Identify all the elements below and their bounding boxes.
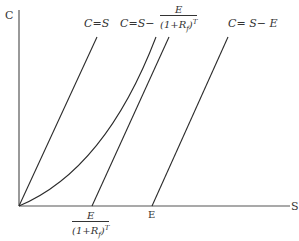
pv-lower-bound-fraction: E (1+Rf)T xyxy=(160,4,197,35)
den-open: (1+R xyxy=(72,225,98,236)
x-tick-pv-numerator: E xyxy=(87,210,94,221)
x-axis-label: S xyxy=(291,200,299,213)
pv-lower-bound-label: C=S− xyxy=(120,17,154,30)
option-bounds-diagram xyxy=(0,0,299,241)
upper-bound-label: C=S xyxy=(84,17,109,30)
x-tick-strike: E xyxy=(148,209,155,220)
intrinsic-lower-bound-line xyxy=(152,37,228,206)
den-sup: T xyxy=(105,224,110,232)
upper-bound-lhs: C= xyxy=(84,17,102,30)
x-tick-pv-strike: E (1+Rf)T xyxy=(72,210,109,241)
pv-lower-bound-lhs: C= xyxy=(120,17,138,30)
den-sup: T xyxy=(193,18,198,26)
pv-fraction-numerator: E xyxy=(175,4,182,15)
y-axis-label: C xyxy=(5,9,13,22)
upper-bound-rhs: S xyxy=(102,17,110,30)
pv-lower-bound-line xyxy=(92,37,169,206)
pv-lower-bound-mid: S− xyxy=(138,17,155,30)
x-tick-pv-denominator: (1+Rf)T xyxy=(72,222,109,241)
upper-bound-line xyxy=(19,37,97,206)
den-open: (1+R xyxy=(160,19,186,30)
intrinsic-lower-bound-label: C= S− E xyxy=(228,17,277,30)
pv-fraction-denominator: (1+Rf)T xyxy=(160,16,197,35)
option-value-curve xyxy=(19,37,156,206)
